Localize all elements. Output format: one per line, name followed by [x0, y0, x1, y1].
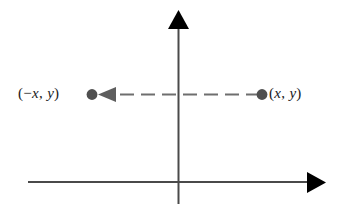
original-point-dot [257, 89, 268, 100]
reflected-point-label: (−x, y) [18, 85, 59, 102]
coordinate-plane-figure: (−x, y) (x, y) [0, 0, 337, 204]
reflected-point-dot [87, 89, 98, 100]
x-axis-arrowhead-icon [307, 172, 326, 193]
y-axis-arrowhead-icon [168, 10, 189, 29]
reflection-arrowhead-icon [98, 87, 116, 102]
original-point-label: (x, y) [269, 85, 302, 102]
axes-and-vectors-svg [0, 0, 337, 204]
